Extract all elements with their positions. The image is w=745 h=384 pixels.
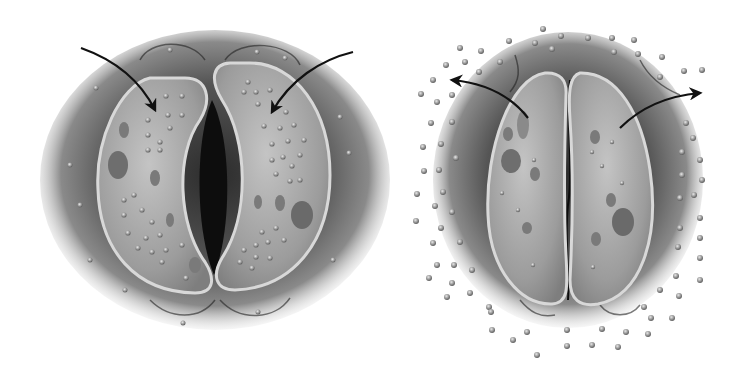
stomata-diagram: Stomata: open and closed guard cells Ope… (0, 0, 745, 384)
open-stoma-panel (40, 30, 390, 330)
diagram-canvas (0, 0, 745, 384)
closed-stoma-panel (413, 26, 705, 358)
